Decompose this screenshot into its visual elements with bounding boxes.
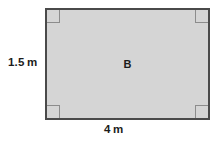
right-angle-mark-bottom-left-icon: [47, 105, 60, 118]
height-dimension-value: 1.5: [8, 56, 25, 68]
width-dimension-unit: m: [113, 123, 123, 135]
right-angle-mark-top-right-icon: [195, 10, 208, 23]
right-angle-mark-top-left-icon: [47, 10, 60, 23]
width-dimension-label: 4m: [104, 123, 123, 135]
width-dimension-value: 4: [104, 123, 111, 135]
shape-interior-label: B: [47, 58, 208, 70]
geometry-figure: B 1.5m 4m: [0, 0, 218, 142]
height-dimension-unit: m: [27, 56, 37, 68]
right-angle-mark-bottom-right-icon: [195, 105, 208, 118]
rectangle-shape-b: B: [45, 8, 210, 120]
height-dimension-label: 1.5m: [8, 56, 37, 68]
